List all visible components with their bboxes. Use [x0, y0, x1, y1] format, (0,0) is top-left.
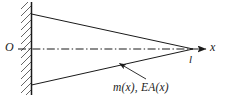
wall-hatching: [12, 0, 39, 103]
origin-label: O: [5, 41, 14, 53]
rod-upper-edge: [32, 14, 194, 49]
length-label: l: [189, 54, 192, 65]
material-properties-label: m(x), EA(x): [113, 82, 169, 94]
tapered-rod-diagram: O x l m(x), EA(x): [0, 0, 225, 103]
properties-leader-line: [120, 64, 147, 80]
rod-lower-edge: [32, 49, 194, 85]
x-axis-label: x: [210, 41, 215, 53]
